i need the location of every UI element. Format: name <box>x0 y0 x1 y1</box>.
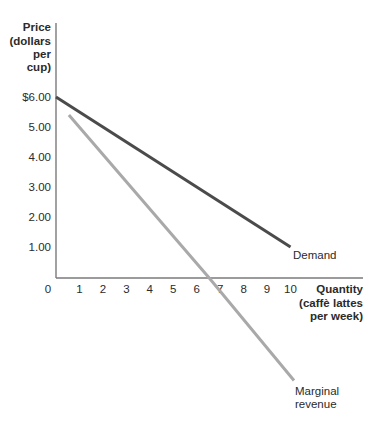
x-tick-label: 1 <box>76 283 82 295</box>
x-tick-label: 2 <box>100 283 106 295</box>
x-axis-title-line: (caffè lattes <box>299 297 363 309</box>
demand-marginal-revenue-chart: Price (dollars per cup) $6.005.004.003.0… <box>0 0 386 425</box>
y-tick-label: $6.00 <box>22 91 51 103</box>
marginal-revenue-label-line: Marginal <box>295 385 339 397</box>
y-tick-label: 3.00 <box>29 181 51 193</box>
x-axis-title-line: Quantity <box>316 283 363 295</box>
x-tick-label: 5 <box>170 283 176 295</box>
x-axis-title: Quantity (caffè lattes per week) <box>299 283 364 322</box>
x-tick-label: 8 <box>240 283 246 295</box>
marginal-revenue-curve <box>69 115 294 381</box>
x-tick-label: 4 <box>147 283 154 295</box>
x-tick-label: 10 <box>284 283 297 295</box>
y-tick-label: 2.00 <box>29 211 51 223</box>
demand-label: Demand <box>293 249 336 261</box>
demand-curve <box>56 97 291 247</box>
x-tick-label: 0 <box>45 283 51 295</box>
marginal-revenue-label-line: revenue <box>295 398 337 410</box>
y-tick-label: 1.00 <box>29 241 51 253</box>
x-tick-labels: 012345678910 <box>45 283 297 295</box>
y-tick-label: 4.00 <box>29 151 51 163</box>
x-tick-label: 6 <box>193 283 199 295</box>
y-axis-title-line: per <box>33 48 51 60</box>
y-axis-title-line: cup) <box>27 61 51 73</box>
y-axis-title: Price (dollars per cup) <box>9 21 51 73</box>
y-axis-title-line: Price <box>23 21 51 33</box>
y-tick-label: 5.00 <box>29 121 51 133</box>
x-tick-label: 3 <box>123 283 129 295</box>
y-tick-labels: $6.005.004.003.002.001.00 <box>22 91 51 253</box>
y-axis-title-line: (dollars <box>9 35 51 47</box>
x-tick-label: 9 <box>264 283 270 295</box>
x-axis-title-line: per week) <box>310 310 363 322</box>
